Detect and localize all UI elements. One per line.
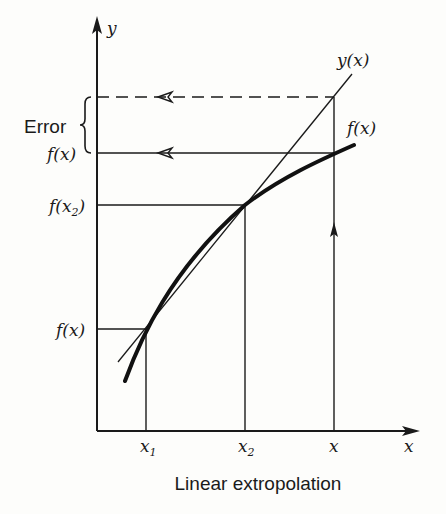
y-axis-label: y <box>106 18 117 38</box>
caption: Linear extropolation <box>175 473 342 494</box>
x2-tick-label: x2 <box>238 436 255 459</box>
x-axis-label: x <box>404 436 414 456</box>
f-x-top-label: f(x) <box>45 144 76 164</box>
y-axis: y <box>92 16 117 431</box>
line-label: y(x) <box>336 50 369 70</box>
f-x-bottom-label: f(x) <box>54 320 85 340</box>
curve-label: f(x) <box>345 118 376 138</box>
x-tick-label: x <box>329 436 339 456</box>
x1-tick-label: x1 <box>140 436 157 459</box>
error-brace-icon <box>80 97 91 153</box>
function-curve <box>125 145 354 381</box>
linear-extrapolation-diagram: y x y(x) f(x) f(x) f(x2) f(x) Error x1 x… <box>0 0 446 514</box>
f-x2-label: f(x2) <box>47 196 85 219</box>
error-label: Error <box>24 116 67 137</box>
